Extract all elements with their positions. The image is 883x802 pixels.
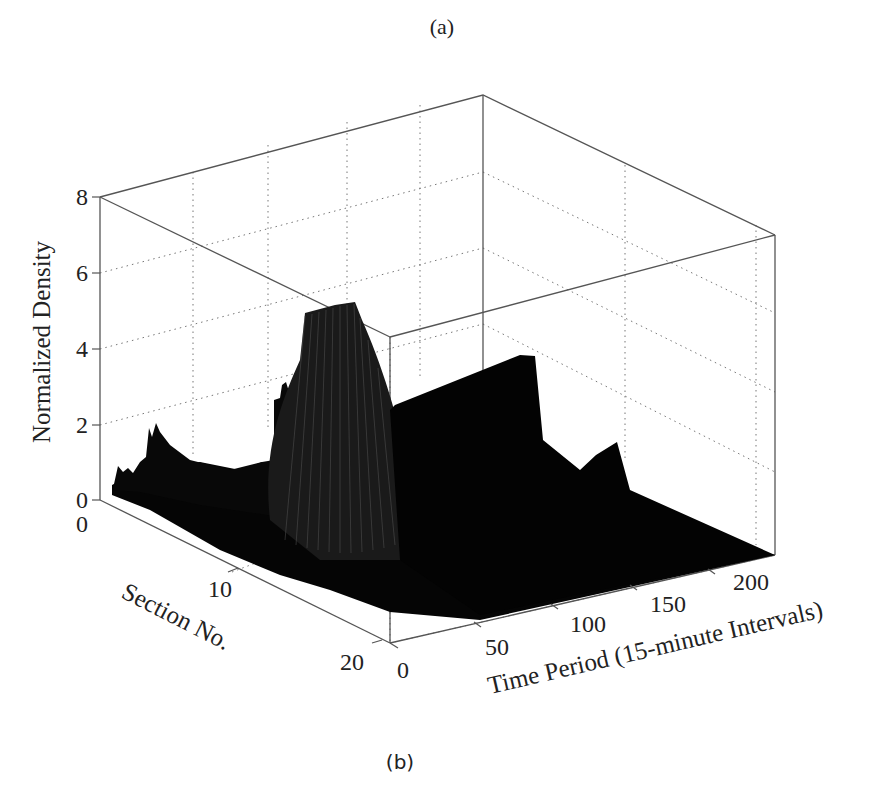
y-tick-10: 10 — [208, 576, 232, 602]
y-tick-20: 20 — [340, 649, 364, 675]
density-surface — [112, 302, 775, 620]
y-tick-0: 0 — [76, 511, 88, 537]
z-tick-6: 6 — [76, 260, 88, 286]
z-tick-labels: 8 6 4 2 0 — [76, 184, 88, 513]
z-tick-8: 8 — [76, 184, 88, 210]
x-tick-100: 100 — [570, 611, 606, 637]
x-tick-200: 200 — [733, 569, 769, 595]
x-tick-0: 0 — [397, 657, 409, 683]
z-axis-title: Normalized Density — [28, 240, 55, 443]
x-tick-50: 50 — [485, 634, 509, 660]
surface-plot: 8 6 4 2 0 0 10 20 0 50 100 150 200 Norma… — [0, 0, 883, 802]
figure-caption-b: (b) — [360, 750, 440, 774]
z-tick-0: 0 — [76, 487, 88, 513]
z-tick-2: 2 — [76, 412, 88, 438]
x-tick-150: 150 — [650, 591, 686, 617]
z-tick-4: 4 — [76, 336, 88, 362]
